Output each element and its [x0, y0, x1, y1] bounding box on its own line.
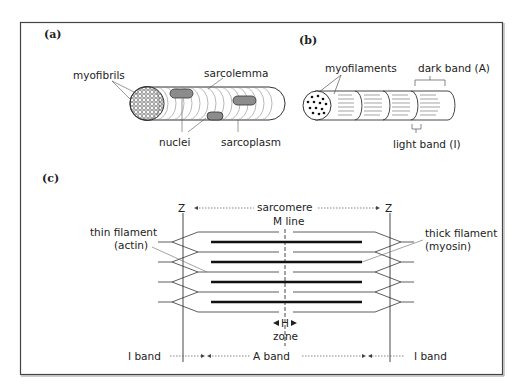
label-myofibrils: myofibrils: [73, 69, 125, 81]
label-myosin: (myosin): [425, 240, 471, 252]
label-light-band: light band (I): [393, 138, 461, 150]
label-thick-filament: thick filament: [425, 227, 497, 239]
myofibril-body: [315, 91, 455, 120]
label-a-band: A band: [253, 350, 290, 362]
label-sarcolemma: sarcolemma: [204, 67, 268, 79]
label-thin-filament: thin filament: [90, 226, 157, 238]
nucleus-1: [170, 89, 193, 98]
panel-c-label: (c): [42, 172, 59, 185]
label-z-right: Z: [385, 202, 392, 214]
figure-canvas: (a): [0, 0, 520, 384]
myofibrils-cross-section: [130, 87, 164, 121]
muscle-structure-figure: (a): [0, 0, 520, 384]
label-h: H: [281, 317, 289, 329]
panel-a-label: (a): [44, 28, 62, 41]
label-zone: zone: [273, 330, 298, 342]
label-m-line: M line: [273, 215, 304, 227]
nucleus-2: [233, 96, 256, 105]
label-myofilaments: myofilaments: [325, 62, 397, 74]
label-z-left: Z: [178, 202, 185, 214]
nucleus-3: [207, 112, 223, 120]
panel-b-label: (b): [299, 34, 317, 47]
label-actin: (actin): [114, 239, 148, 251]
label-i-band-left: I band: [128, 350, 161, 362]
label-sarcomere: sarcomere: [257, 201, 312, 213]
label-sarcoplasm: sarcoplasm: [221, 136, 281, 148]
label-dark-band: dark band (A): [418, 62, 490, 74]
label-nuclei: nuclei: [159, 136, 190, 148]
label-i-band-right: I band: [414, 350, 447, 362]
